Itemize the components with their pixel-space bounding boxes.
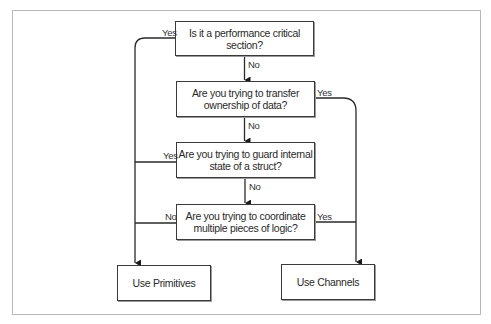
node-text-line2: state of a struct? — [209, 160, 281, 172]
decision-guard-internal-state: Are you trying to guard internal state o… — [176, 142, 315, 178]
arrow-q2-yes — [315, 98, 356, 262]
decision-coordinate-logic: Are you trying to coordinate multiple pi… — [176, 204, 315, 240]
edge-label-q4-yes: Yes — [317, 212, 332, 222]
node-text: Use Primitives — [133, 277, 196, 289]
edge-label-q2-no: No — [248, 121, 260, 131]
node-text-line2: multiple pieces of logic? — [194, 222, 298, 234]
edge-label-q4-no: No — [165, 212, 177, 222]
decision-performance-critical: Is it a performance critical section? — [175, 21, 314, 56]
edge-label-q3-yes: Yes — [163, 151, 178, 161]
outcome-use-channels: Use Channels — [281, 264, 375, 300]
node-text: Use Channels — [297, 276, 359, 288]
edge-label-q1-no: No — [248, 60, 260, 70]
node-text-line1: Are you trying to coordinate — [185, 210, 305, 222]
edge-label-q1-yes: Yes — [162, 28, 177, 38]
edge-label-q3-no: No — [249, 182, 261, 192]
decision-transfer-ownership: Are you trying to transfer ownership of … — [176, 81, 315, 117]
node-text-line1: Are you trying to transfer — [192, 87, 299, 99]
outcome-use-primitives: Use Primitives — [117, 265, 211, 301]
node-text-line2: ownership of data? — [204, 99, 287, 111]
node-text: Is it a performance critical section? — [176, 27, 313, 51]
node-text-line1: Are you trying to guard internal — [179, 148, 313, 160]
edge-label-q2-yes: Yes — [317, 88, 332, 98]
